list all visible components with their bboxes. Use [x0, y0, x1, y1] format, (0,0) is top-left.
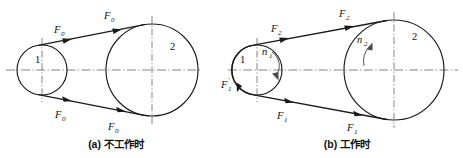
svg-text:2: 2 — [364, 40, 368, 48]
panel-b-small-pulley-label: 1 — [240, 54, 245, 65]
svg-text:F: F — [103, 10, 111, 21]
svg-text:F: F — [270, 23, 278, 34]
svg-text:n: n — [357, 34, 362, 45]
diagram-canvas: 1 2 F 0 F 0 F 0 F 0 — [0, 0, 463, 158]
svg-text:F: F — [54, 109, 62, 120]
panel-b-label-n1: n 1 — [262, 46, 273, 60]
panel-a-label-F0-lower-left: F 0 — [54, 109, 66, 123]
svg-text:1: 1 — [354, 128, 358, 136]
panel-b-group: 1 2 n 1 n 2 F 2 F 2 F — [220, 8, 458, 136]
svg-text:F: F — [346, 122, 354, 133]
panel-b-arrow-F1-lower-left — [284, 98, 294, 104]
panel-b-arrow-F1-prime — [237, 83, 243, 92]
svg-text:F: F — [107, 121, 115, 132]
svg-text:F: F — [53, 24, 61, 35]
svg-text:2: 2 — [278, 29, 282, 37]
panel-b-label-F2-upper-left: F 2 — [270, 23, 282, 37]
svg-text:F: F — [220, 79, 228, 90]
panel-b-label-F1-lower-right: F 1 — [346, 122, 358, 136]
panel-a-large-pulley-label: 2 — [170, 41, 175, 52]
panel-a-caption: (a) 不工作时 — [0, 136, 232, 151]
svg-text:F: F — [276, 110, 284, 121]
svg-text:1: 1 — [269, 52, 273, 60]
panel-b-arrow-F2-upper-left — [279, 37, 289, 43]
svg-text:0: 0 — [61, 30, 65, 38]
panel-b-belt-lower — [254, 95, 388, 120]
panel-a-label-F0-lower-right: F 0 — [107, 121, 119, 135]
panel-a-group: 1 2 F 0 F 0 F 0 F 0 — [6, 10, 200, 135]
panel-b-label-F1-prime: F 1 ' — [220, 76, 232, 93]
panel-a-label-F0-upper-right: F 0 — [103, 10, 115, 24]
panel-b-label-n2: n 2 — [357, 34, 368, 48]
panel-a-small-pulley-label: 1 — [35, 54, 40, 65]
panel-b-arrow-F1-lower-right — [353, 111, 363, 117]
svg-text:0: 0 — [111, 16, 115, 24]
svg-text:1: 1 — [284, 116, 288, 124]
panel-b-caption: (b) 工作时 — [231, 136, 463, 151]
panel-a-arrow-F0-upper-right — [112, 29, 122, 34]
panel-b-label-F2-upper-right: F 2 — [338, 8, 350, 22]
panel-a-arrow-F0-upper-left — [62, 38, 72, 44]
svg-text:0: 0 — [62, 115, 66, 123]
panel-a-arrow-F0-lower-left — [62, 96, 72, 102]
svg-text:n: n — [262, 46, 267, 57]
panel-b-arrow-F2-upper-right — [344, 25, 354, 31]
panel-b-label-F1-lower-left: F 1 — [276, 110, 288, 124]
svg-text:': ' — [228, 76, 230, 84]
svg-text:2: 2 — [346, 14, 350, 22]
svg-text:0: 0 — [115, 127, 119, 135]
panel-b-rotation-arrowhead-n1 — [272, 72, 279, 81]
svg-text:1: 1 — [228, 85, 232, 93]
panel-b-large-pulley-label: 2 — [412, 31, 417, 42]
panel-a-label-F0-upper-left: F 0 — [53, 24, 65, 38]
belt-drive-figure: 1 2 F 0 F 0 F 0 F 0 — [0, 0, 463, 158]
svg-text:F: F — [338, 8, 346, 19]
